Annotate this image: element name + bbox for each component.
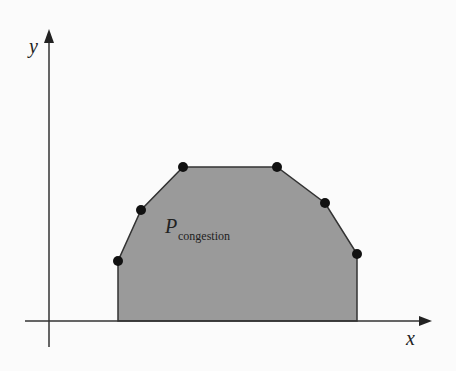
vertex-point — [136, 205, 146, 215]
congestion-region — [118, 167, 357, 321]
diagram-canvas: y x P congestion — [0, 0, 456, 371]
region-label-subscript: congestion — [178, 229, 230, 243]
region-label: P — [164, 215, 177, 237]
y-axis-label: y — [27, 35, 38, 58]
vertex-point — [178, 162, 188, 172]
vertex-point — [272, 162, 282, 172]
y-axis-arrow-icon — [44, 29, 54, 43]
vertex-point — [352, 249, 362, 259]
x-axis-arrow-icon — [419, 316, 432, 326]
vertex-point — [113, 256, 123, 266]
x-axis-label: x — [405, 327, 415, 349]
vertex-point — [320, 198, 330, 208]
